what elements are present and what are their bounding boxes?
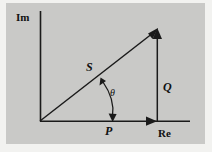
reactive-power-label: Q xyxy=(163,81,172,93)
real-power-arrowhead xyxy=(146,117,157,126)
apparent-power-vector-line xyxy=(40,33,153,121)
figure-page: Im Re S P Q θ xyxy=(0,0,212,152)
real-axis-label: Re xyxy=(158,128,171,139)
real-power-label: P xyxy=(105,125,112,137)
apparent-power-label: S xyxy=(86,61,93,73)
imaginary-axis-label: Im xyxy=(16,12,29,23)
angle-theta-label: θ xyxy=(110,88,115,98)
